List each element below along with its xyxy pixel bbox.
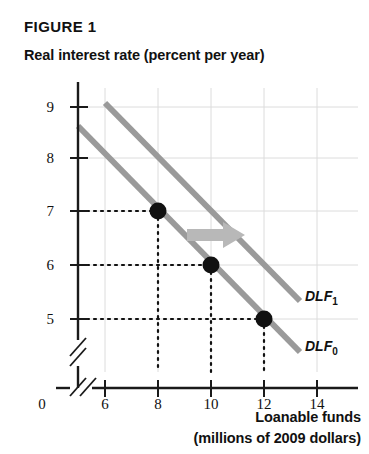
y-tick-label-6: 6 [30,257,54,274]
curve-label-dlf1-subscript: 1 [332,296,338,307]
figure-container: FIGURE 1 Real interest rate (percent per… [0,0,369,454]
x-tick-label-8: 8 [141,396,175,413]
y-tick-label-5: 5 [30,311,54,328]
curve-label-dlf1-text: DLF [305,288,332,304]
x-axis-caption-line2: (millions of 2009 dollars) [194,430,361,446]
curve-label-dlf1: DLF1 [305,288,338,307]
x-tick-label-0: 0 [25,396,59,413]
y-tick-label-9: 9 [30,99,54,116]
x-tick-label-6: 6 [88,396,122,413]
curve-label-dlf0-subscript: 0 [332,346,338,357]
marker-point-10-6 [203,257,220,274]
marker-point-12-5 [256,311,273,328]
curve-dlf1 [105,103,300,301]
chart-plot-area [0,0,369,454]
y-tick-label-7: 7 [30,203,54,220]
y-tick-label-8: 8 [30,150,54,167]
x-axis-caption-line1: Loanable funds [255,409,361,425]
curve-label-dlf0-text: DLF [305,338,332,354]
marker-point-8-7 [150,203,167,220]
x-tick-label-10: 10 [194,396,228,413]
curve-label-dlf0: DLF0 [305,338,338,357]
